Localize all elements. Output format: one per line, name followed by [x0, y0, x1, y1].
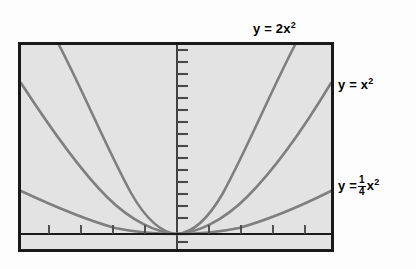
curve-label-quarter-x2: y =14x2 [338, 176, 379, 198]
plot-frame [18, 42, 334, 252]
curve-label-quarter-lhs: y = [338, 178, 357, 193]
fraction-numerator: 1 [358, 175, 366, 186]
curve-label-2x2-exponent: 2 [291, 20, 296, 30]
fraction-one-quarter: 14 [358, 175, 366, 197]
plot-svg [21, 45, 331, 249]
curve-label-x2: y = x2 [338, 78, 374, 91]
curve-label-quarter-exponent: 2 [374, 177, 379, 187]
plot-background [21, 45, 331, 249]
fraction-denominator: 4 [358, 186, 366, 198]
curve-label-x2-exponent: 2 [368, 76, 373, 86]
curve-label-2x2-text: y = 2x [253, 21, 291, 36]
curve-label-x2-text: y = x [338, 77, 368, 92]
figure-canvas: y = 2x2 y = x2 y =14x2 [0, 0, 416, 269]
curve-label-2x2: y = 2x2 [253, 22, 296, 35]
